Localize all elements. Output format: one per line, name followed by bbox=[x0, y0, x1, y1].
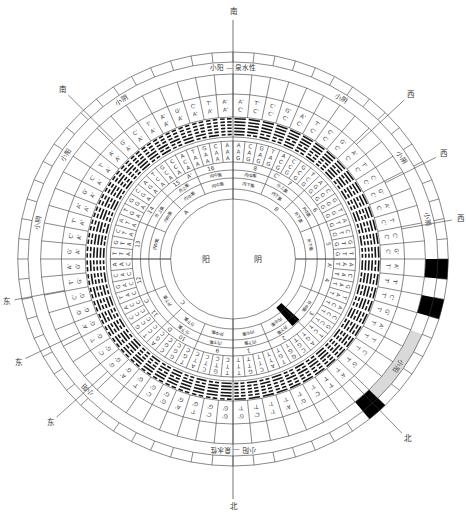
letter-ring-outer: T' bbox=[68, 279, 75, 286]
letter-ring-outer: T' bbox=[253, 100, 260, 107]
letter-ring-inner: C' bbox=[383, 234, 390, 240]
letter-ring-inner: T' bbox=[253, 403, 260, 410]
yang-line bbox=[378, 260, 379, 271]
yang-line bbox=[100, 248, 101, 258]
yin-line bbox=[254, 388, 258, 389]
yin-line bbox=[99, 279, 100, 283]
yin-line bbox=[195, 132, 199, 133]
direction-label: 南 bbox=[59, 84, 67, 94]
yin-line bbox=[213, 123, 217, 124]
yin-line bbox=[192, 394, 196, 395]
letter-ring-inner: A' bbox=[223, 107, 228, 113]
yin-line bbox=[365, 228, 366, 232]
letter-ring-inner: G' bbox=[207, 403, 213, 410]
yang-line bbox=[94, 247, 95, 258]
yin-line bbox=[105, 236, 106, 240]
yin-line bbox=[197, 138, 201, 139]
yin-line bbox=[103, 229, 104, 233]
yin-line bbox=[262, 389, 266, 390]
yin-line bbox=[373, 280, 374, 284]
yin-line bbox=[208, 133, 212, 134]
yin-line bbox=[98, 273, 99, 277]
yang-line bbox=[221, 389, 232, 390]
yin-line bbox=[206, 397, 211, 398]
yin-line bbox=[214, 126, 218, 127]
letter-ring-inner: C' bbox=[385, 249, 391, 255]
letter-ring-outer: C' bbox=[68, 233, 75, 239]
yin-line bbox=[92, 234, 93, 238]
letter-ring-inner: G' bbox=[222, 405, 228, 411]
codon-letter: G bbox=[112, 240, 119, 245]
yang-line bbox=[365, 260, 366, 270]
yin-line bbox=[374, 274, 375, 278]
yang-line bbox=[221, 392, 232, 393]
letter-ring-inner: T' bbox=[383, 277, 390, 284]
yin-line bbox=[363, 235, 364, 239]
yin-line bbox=[207, 124, 211, 125]
yang-line bbox=[104, 248, 105, 258]
yin-line bbox=[213, 120, 218, 121]
diagram-canvas: AAGCAGGAGTAGACGCCGGCGTCGAGGCGGGGGTGGATGC… bbox=[0, 0, 466, 517]
yin-line bbox=[266, 135, 270, 136]
yang-line bbox=[90, 260, 91, 271]
letter-ring-outer: T' bbox=[392, 278, 399, 285]
yin-line bbox=[202, 383, 206, 384]
yin-line bbox=[368, 227, 369, 231]
yin-line bbox=[98, 293, 99, 297]
yin-line bbox=[88, 274, 89, 278]
yin-line bbox=[199, 122, 203, 123]
yin-line bbox=[102, 279, 103, 283]
yang-line bbox=[220, 396, 231, 397]
yin-line bbox=[193, 126, 197, 127]
yang-line bbox=[234, 128, 245, 129]
codon-letter: G bbox=[335, 252, 341, 256]
yin-line bbox=[90, 226, 91, 230]
center-label-yang: 阳 bbox=[202, 255, 210, 264]
yin-line bbox=[88, 240, 89, 244]
yin-line bbox=[367, 221, 368, 225]
direction-label: 东 bbox=[47, 417, 55, 427]
letter-ring-inner: C' bbox=[238, 107, 244, 113]
letter-ring-inner: T' bbox=[385, 263, 391, 269]
codon-letter: A bbox=[348, 263, 354, 267]
yin-line bbox=[362, 285, 363, 289]
yin-line bbox=[364, 222, 365, 226]
direction-label: 北 bbox=[230, 502, 238, 511]
yin-line bbox=[360, 278, 361, 282]
yin-line bbox=[101, 292, 102, 296]
direction-label: 东 bbox=[3, 296, 11, 306]
yin-line bbox=[269, 391, 273, 392]
codon-letter: G bbox=[334, 242, 341, 247]
codon-letter: A bbox=[236, 149, 240, 155]
yin-line bbox=[91, 240, 92, 244]
yang-line bbox=[378, 247, 379, 258]
yin-line bbox=[253, 136, 257, 137]
codon-letter: A bbox=[226, 149, 230, 155]
codon-letter: G bbox=[347, 240, 354, 245]
yin-line bbox=[360, 291, 361, 295]
yin-line bbox=[100, 286, 101, 290]
yin-line bbox=[359, 230, 360, 234]
yin-line bbox=[361, 272, 362, 276]
yang-line bbox=[97, 247, 98, 257]
band-label: 小阳 — 泉水性 bbox=[210, 446, 256, 455]
codon-letter: A bbox=[342, 262, 348, 266]
yin-line bbox=[367, 235, 368, 239]
letter-ring-outer: G' bbox=[66, 248, 72, 254]
yin-line bbox=[261, 386, 265, 387]
yin-line bbox=[101, 273, 102, 277]
yin-line bbox=[254, 384, 258, 385]
codon-hexagram-wheel: AAGCAGGAGTAGACGCCGGCGTCGAGGCGGGGGTGGATGC… bbox=[0, 0, 466, 517]
yin-line bbox=[192, 123, 196, 124]
yin-line bbox=[260, 134, 264, 135]
codon-letter: A bbox=[111, 262, 117, 266]
yin-line bbox=[104, 223, 105, 227]
yin-line bbox=[215, 132, 219, 133]
letter-ring-outer: A' bbox=[393, 264, 399, 269]
codon-letter: A bbox=[226, 155, 230, 161]
yin-line bbox=[199, 395, 203, 396]
yin-line bbox=[248, 395, 252, 396]
letter-ring-inner: A' bbox=[207, 108, 213, 115]
letter-ring-outer: A' bbox=[66, 264, 72, 269]
yang-line bbox=[234, 125, 245, 126]
